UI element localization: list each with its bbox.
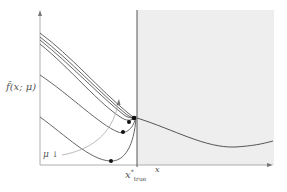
minimizer-dot	[132, 116, 137, 121]
down-arrow-icon: ↓	[52, 150, 59, 159]
barrier-curve-5	[40, 75, 136, 133]
minimizer-dot	[109, 159, 113, 163]
mu-decrease-arrow	[62, 104, 118, 155]
minimizer-dot	[121, 130, 125, 134]
minimizer-dot	[127, 120, 131, 124]
y-axis-arrow-icon	[38, 10, 42, 16]
y-axis-label: f̃(x; μ)	[6, 82, 36, 92]
arrowhead-icon	[117, 99, 121, 105]
x-axis-label: x	[155, 166, 160, 174]
figure-canvas	[0, 0, 287, 192]
barrier-curve-1	[40, 33, 136, 118]
mu-label: μ ↓	[43, 150, 58, 159]
x-true-tick-label: x*true	[125, 169, 146, 182]
barrier-curve-2	[40, 37, 135, 118]
x-true-sub: true	[134, 175, 147, 182]
shaded-region	[137, 10, 274, 165]
barrier-curve-4	[40, 44, 136, 120]
x-true-sup: *	[131, 168, 134, 175]
mu-symbol: μ	[43, 149, 49, 159]
